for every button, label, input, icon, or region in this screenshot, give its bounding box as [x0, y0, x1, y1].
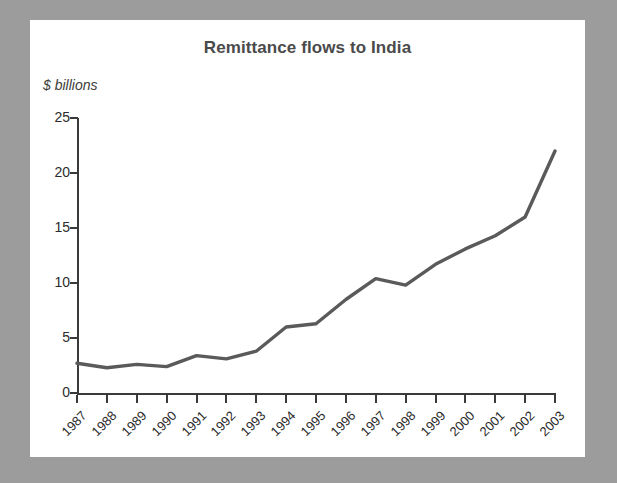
image-frame: Remittance flows to India $ billions 051… [0, 0, 617, 483]
chart-card: Remittance flows to India $ billions 051… [30, 20, 585, 457]
line-series-plot [30, 20, 585, 457]
series-line-remittances [77, 151, 555, 368]
